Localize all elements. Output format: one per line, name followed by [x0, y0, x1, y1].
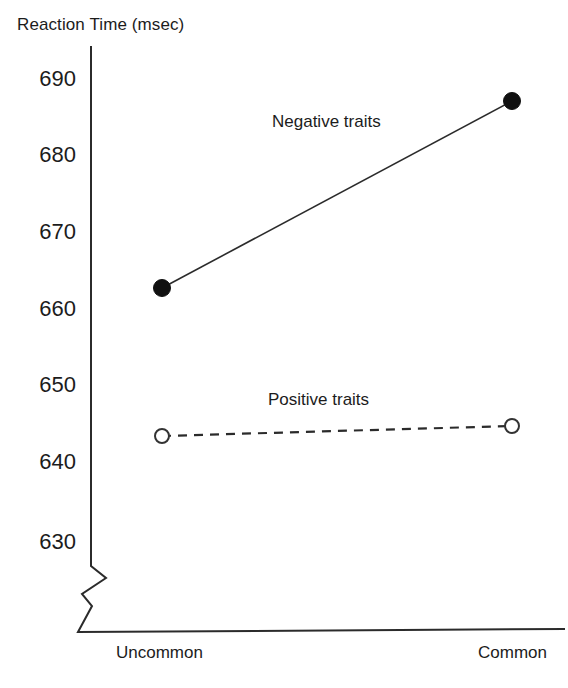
- series-line-negative-traits: [162, 101, 512, 288]
- data-point-negative-uncommon: [154, 280, 171, 297]
- axis-lines-with-break: [78, 46, 565, 632]
- series-line-positive-traits: [162, 426, 512, 436]
- data-point-positive-common: [505, 419, 519, 433]
- data-point-positive-uncommon: [155, 429, 169, 443]
- data-point-negative-common: [504, 93, 521, 110]
- plot-area: [0, 0, 568, 688]
- reaction-time-line-chart: Reaction Time (msec) 690 680 670 660 650…: [0, 0, 568, 688]
